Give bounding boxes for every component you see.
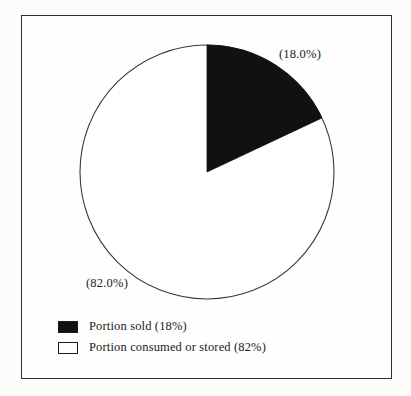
legend-label-consumed-or-stored: Portion consumed or stored (82%) (89, 340, 266, 355)
pie-chart-figure: (18.0%) (82.0%) Portion sold (18%) Porti… (0, 0, 411, 396)
legend-swatch-consumed-or-stored-icon (58, 342, 78, 354)
legend-item-sold: Portion sold (18%) (58, 316, 266, 337)
slice-callout-sold: (18.0%) (279, 47, 321, 62)
legend-swatch-sold-icon (58, 321, 78, 333)
legend-item-consumed-or-stored: Portion consumed or stored (82%) (58, 337, 266, 358)
chart-legend: Portion sold (18%) Portion consumed or s… (58, 316, 266, 358)
slice-callout-consumed-or-stored: (82.0%) (86, 276, 128, 291)
legend-label-sold: Portion sold (18%) (89, 319, 187, 334)
